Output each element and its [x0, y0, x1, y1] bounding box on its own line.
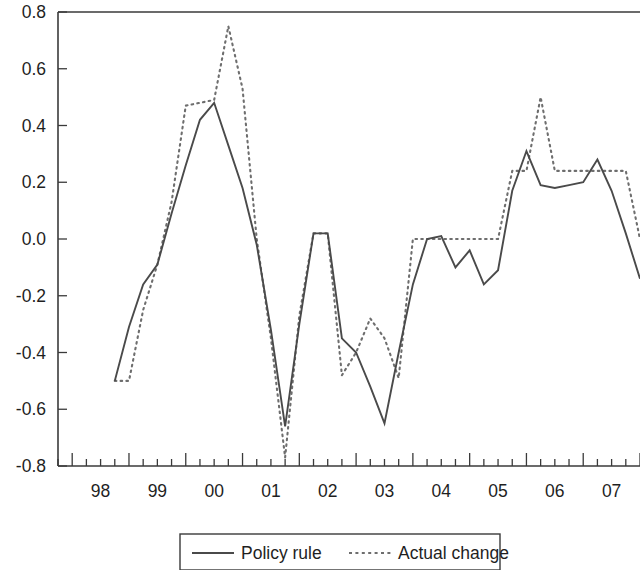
- y-tick-label: 0.6: [22, 59, 46, 79]
- y-axis-tick-marks: [58, 12, 67, 466]
- x-tick-label: 07: [602, 481, 621, 501]
- y-tick-label: 0.4: [22, 116, 47, 136]
- y-tick-label: -0.2: [16, 286, 46, 306]
- x-tick-label: 99: [148, 481, 167, 501]
- x-tick-label: 04: [432, 481, 452, 501]
- series-actual-change: [115, 26, 640, 457]
- y-tick-label: 0.8: [22, 2, 46, 22]
- legend-label-policy-rule: Policy rule: [241, 543, 322, 563]
- y-tick-label: 0.2: [22, 172, 46, 192]
- x-axis-tick-marks: [58, 453, 640, 466]
- x-tick-label: 00: [204, 481, 224, 501]
- y-tick-label: -0.8: [16, 456, 46, 476]
- y-tick-label: 0.0: [22, 229, 47, 249]
- x-tick-label: 06: [545, 481, 564, 501]
- x-tick-label: 02: [318, 481, 337, 501]
- x-axis-tick-labels: 98990001020304050607: [91, 481, 621, 501]
- x-tick-label: 05: [488, 481, 507, 501]
- line-chart: 0.80.60.40.20.0-0.2-0.4-0.6-0.8 98990001…: [0, 0, 640, 570]
- x-tick-label: 01: [261, 481, 280, 501]
- y-axis-tick-labels: 0.80.60.40.20.0-0.2-0.4-0.6-0.8: [16, 2, 46, 476]
- x-tick-label: 03: [375, 481, 394, 501]
- chart-figure: 0.80.60.40.20.0-0.2-0.4-0.6-0.8 98990001…: [0, 0, 640, 570]
- y-tick-label: -0.6: [16, 399, 46, 419]
- series-group: [115, 26, 640, 457]
- series-policy-rule: [115, 103, 640, 426]
- chart-legend: Policy rule Actual change: [180, 534, 509, 570]
- legend-label-actual-change: Actual change: [398, 543, 509, 563]
- y-tick-label: -0.4: [16, 343, 46, 363]
- x-tick-label: 98: [91, 481, 110, 501]
